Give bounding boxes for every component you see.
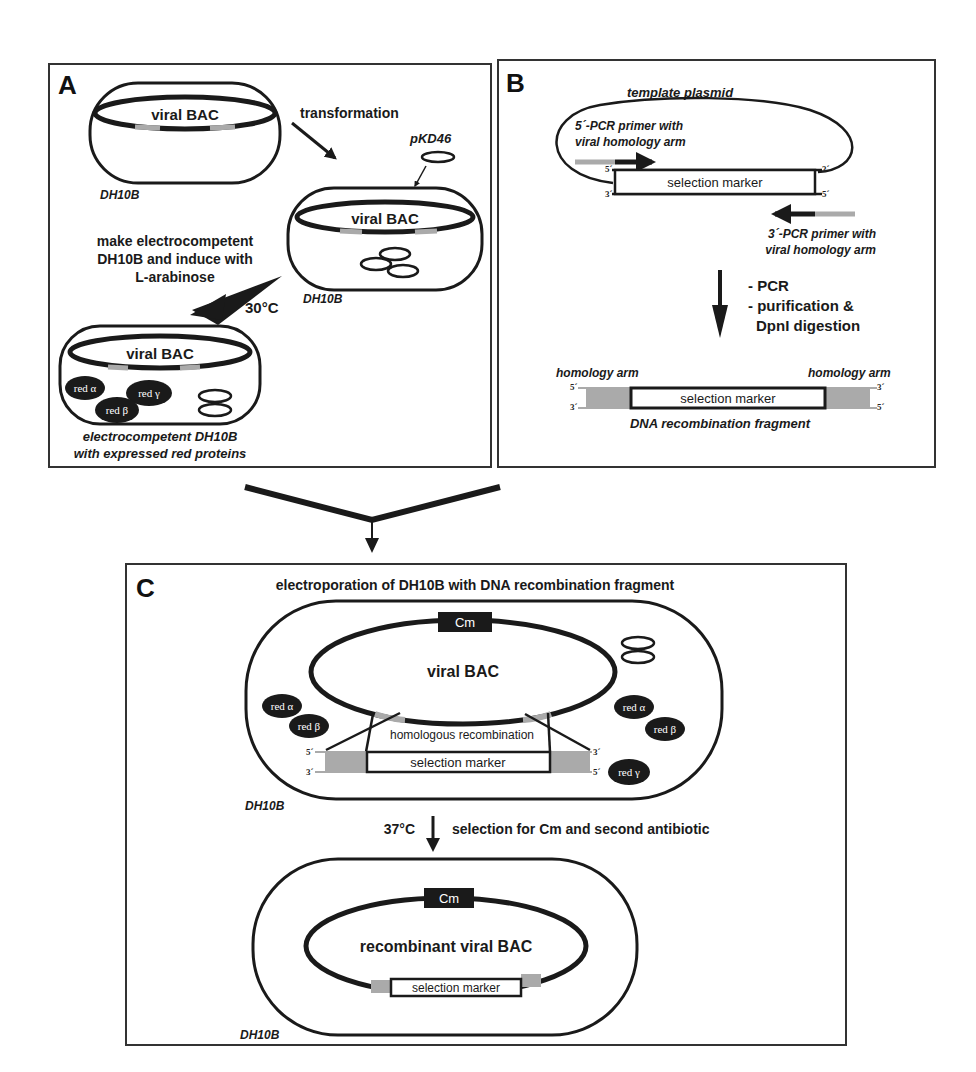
red-alpha-label: red α (74, 382, 97, 394)
plasmid-label: viral BAC (151, 106, 219, 123)
red-alpha-label: red α (623, 701, 646, 713)
cm-label: Cm (439, 891, 459, 906)
bac-recombineering-diagram: A viral BAC DH10B transformation pKD46 v… (0, 0, 976, 1072)
induction-step-line-1: make electrocompetent (97, 233, 254, 249)
three-prime-label: 3´ (570, 402, 578, 412)
step-purification: - purification & (748, 297, 854, 314)
merge-lines-icon (245, 487, 500, 520)
five-prime-label: 5´ (570, 382, 578, 392)
primer5-line-1: 5´-PCR primer with (575, 119, 683, 133)
red-gamma-label: red γ (618, 766, 640, 778)
pkd46-plasmid-icon (622, 651, 654, 663)
panel-c-letter: C (136, 573, 155, 603)
three-prime-label: 3´ (822, 164, 830, 174)
crossover-line-icon (366, 714, 373, 752)
cell-label: DH10B (240, 1028, 280, 1042)
pkd46-plasmid-icon (622, 637, 654, 649)
crossover-line-icon (525, 714, 590, 750)
homology-arm-right-icon (825, 388, 870, 408)
crossover-line-icon (326, 713, 400, 750)
homology-arm-left-icon (586, 388, 631, 408)
pkd46-plasmid-icon (388, 265, 418, 277)
homology-region-icon (415, 231, 437, 232)
pkd46-plasmid-icon (199, 390, 231, 402)
panel-a: A viral BAC DH10B transformation pKD46 v… (49, 64, 491, 467)
panel-b-letter: B (506, 68, 525, 98)
helper-plasmid-label: pKD46 (409, 131, 452, 146)
primer5-line-2: viral homology arm (575, 135, 686, 149)
homology-region-icon (180, 367, 200, 368)
panel-c: C electroporation of DH10B with DNA reco… (126, 564, 846, 1045)
cell-label: DH10B (303, 292, 343, 306)
transformation-arrow-icon (292, 123, 335, 158)
cell-label: DH10B (245, 799, 285, 813)
homology-region-icon (135, 127, 160, 128)
plasmid-label: recombinant viral BAC (360, 938, 533, 955)
selection-arrow-head-icon (426, 838, 440, 852)
panel-a-letter: A (58, 70, 77, 100)
recombinant-cell: Cm recombinant viral BAC selection marke… (240, 859, 637, 1042)
red-gamma-label: red γ (138, 387, 160, 399)
induction-arrow-head-icon (190, 294, 226, 320)
primer3-line-2: viral homology arm (765, 243, 876, 257)
red-alpha-label: red α (271, 700, 294, 712)
five-prime-label: 5´ (605, 164, 613, 174)
cell-3-electrocompetent: viral BAC red α red γ red β electrocompe… (60, 326, 260, 461)
primer3-line-1: 3´-PCR primer with (768, 227, 876, 241)
selection-marker-label: selection marker (667, 175, 763, 190)
three-prime-label: 3´ (306, 767, 314, 777)
transformation-label: transformation (300, 105, 399, 121)
five-prime-label: 5´ (822, 189, 830, 199)
caption-line-2: with expressed red proteins (74, 446, 247, 461)
cell-1-dh10b: viral BAC DH10B (90, 83, 280, 202)
merge-arrow-head-icon (365, 538, 379, 553)
homology-arm-left-label: homology arm (556, 366, 639, 380)
homology-arm-left-icon (325, 752, 367, 772)
selection-label: selection for Cm and second antibiotic (452, 821, 710, 837)
selection-marker-label: selection marker (410, 755, 506, 770)
crossover-line-icon (548, 713, 550, 752)
step-dpni: DpnI digestion (756, 317, 860, 334)
five-prime-label: 5´ (593, 767, 601, 777)
plasmid-label: viral BAC (427, 663, 499, 680)
homology-region-right-icon (521, 974, 541, 987)
pcr-arrow-head-icon (712, 305, 728, 338)
selection-marker-label: selection marker (412, 981, 500, 995)
merge-lines-outline (245, 487, 500, 520)
pkd46-plasmid-icon (422, 152, 454, 162)
homology-region-left-icon (371, 980, 391, 993)
selection-marker-label: selection marker (680, 391, 776, 406)
panel-b: B template plasmid 5´-PCR primer with vi… (498, 60, 935, 467)
cell-2-dh10b: viral BAC DH10B (288, 188, 482, 306)
pkd46-plasmid-icon (199, 404, 231, 416)
red-beta-label: red β (298, 720, 321, 732)
homology-region-icon (210, 127, 235, 128)
cell-label: DH10B (100, 188, 140, 202)
homology-region-icon (108, 367, 128, 368)
red-beta-label: red β (106, 404, 129, 416)
three-prime-label: 3´ (877, 382, 885, 392)
induction-step-line-3: L-arabinose (135, 269, 215, 285)
plasmid-label: viral BAC (351, 210, 419, 227)
three-prime-label: 3´ (593, 747, 601, 757)
induction-step-line-2: DH10B and induce with (97, 251, 253, 267)
homology-arm-right-icon (550, 752, 590, 772)
five-prime-label: 5´ (877, 402, 885, 412)
red-beta-label: red β (654, 723, 677, 735)
fragment-label: DNA recombination fragment (630, 416, 811, 431)
uptake-arrow-icon (415, 166, 426, 186)
recombination-label: homologous recombination (390, 728, 534, 742)
homology-region-icon (340, 231, 362, 232)
electroporated-cell: Cm viral BAC homologous recombination 5´… (245, 601, 722, 813)
caption-line-1: electrocompetent DH10B (83, 429, 238, 444)
temperature-37: 37°C (384, 821, 415, 837)
plasmid-label: viral BAC (126, 345, 194, 362)
panel-c-title: electroporation of DH10B with DNA recomb… (276, 577, 675, 593)
three-prime-label: 3´ (605, 189, 613, 199)
merge-arrow (245, 487, 500, 553)
cm-label: Cm (455, 615, 475, 630)
temperature-30: 30°C (245, 299, 279, 316)
step-pcr: - PCR (748, 277, 789, 294)
five-prime-label: 5´ (306, 747, 314, 757)
pkd46-plasmid-icon (361, 258, 391, 270)
